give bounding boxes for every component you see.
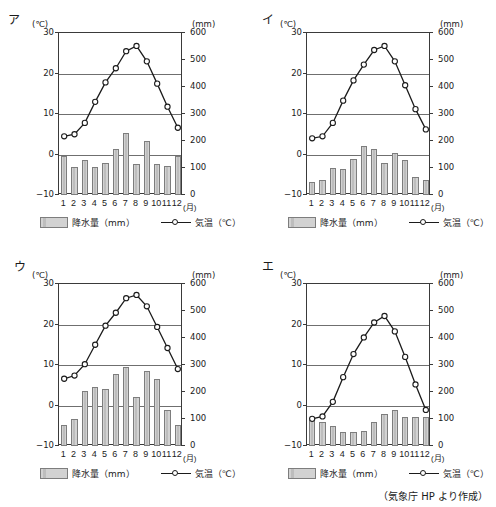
panel-label-b: イ [262, 10, 274, 27]
right-tickmark-d-200 [429, 391, 433, 392]
chart-panel-c: ウ(℃)(mm)3020100−106005004003002001000123… [0, 257, 248, 507]
right-tickmark-a-0 [181, 194, 185, 195]
left-tick-b-0: 0 [276, 149, 302, 159]
left-tick-c-20: 20 [28, 319, 54, 329]
legend-item-precipitation: 降水量（mm） [40, 216, 135, 229]
source-credit: （気象庁 HP より作成） [378, 488, 488, 503]
left-tickmark-b-20 [303, 73, 307, 74]
right-tick-b-400: 400 [438, 81, 454, 91]
chart-panel-a: ア(℃)(mm)3020100−106005004003002001000123… [0, 6, 248, 256]
left-tick-b-30: 30 [276, 27, 302, 37]
temperature-point [124, 296, 129, 301]
temperature-point [351, 78, 356, 83]
legend-item-temperature: 気温（℃） [161, 467, 241, 480]
right-tickmark-d-400 [429, 337, 433, 338]
right-tickmark-d-500 [429, 310, 433, 311]
legend-item-precipitation: 降水量（mm） [288, 467, 383, 480]
right-tick-d-0: 0 [438, 440, 443, 450]
left-tick-d-20: 20 [276, 319, 302, 329]
left-tick-b-10: 10 [276, 108, 302, 118]
right-tick-b-100: 100 [438, 162, 454, 172]
legend-a: 降水量（mm）気温（℃） [40, 216, 241, 229]
right-tick-b-600: 600 [438, 27, 454, 37]
right-tick-a-200: 200 [190, 135, 206, 145]
temperature-point [72, 132, 77, 137]
right-tick-d-500: 500 [438, 305, 454, 315]
right-tickmark-d-300 [429, 364, 433, 365]
right-tick-b-0: 0 [438, 189, 443, 199]
legend-b: 降水量（mm）気温（℃） [288, 216, 489, 229]
right-tick-c-0: 0 [190, 440, 195, 450]
temperature-point [320, 134, 325, 139]
left-tickmark-a-30 [55, 32, 59, 33]
right-tick-a-400: 400 [190, 81, 206, 91]
x-axis-unit-c: (月) [183, 452, 196, 463]
legend-label-precipitation: 降水量（mm） [72, 216, 135, 229]
panel-label-c: ウ [14, 257, 26, 274]
left-tick-d-30: 30 [276, 278, 302, 288]
line-marker-icon [161, 469, 191, 478]
left-tick-c--10: −10 [28, 440, 54, 450]
left-tick-a-10: 10 [28, 108, 54, 118]
temperature-point [103, 80, 108, 85]
left-tickmark-d-10 [303, 364, 307, 365]
temperature-point [113, 310, 118, 315]
legend-line-marker [420, 470, 426, 476]
temperature-point [341, 98, 346, 103]
chart-panel-b: イ(℃)(mm)3020100−106005004003002001000123… [248, 6, 496, 256]
legend-c: 降水量（mm）気温（℃） [40, 467, 241, 480]
right-tick-a-100: 100 [190, 162, 206, 172]
legend-item-precipitation: 降水量（mm） [40, 467, 135, 480]
right-tickmark-c-400 [181, 337, 185, 338]
temperature-point [392, 329, 397, 334]
line-marker-icon [409, 218, 439, 227]
right-tickmark-c-0 [181, 445, 185, 446]
right-tickmark-b-500 [429, 59, 433, 60]
legend-label-precipitation: 降水量（mm） [72, 467, 135, 480]
temperature-line [64, 295, 178, 379]
left-tick-a-20: 20 [28, 68, 54, 78]
legend-label-temperature: 気温（℃） [443, 216, 489, 229]
temperature-point [310, 136, 315, 141]
temperature-point [124, 49, 129, 54]
right-tick-d-600: 600 [438, 278, 454, 288]
legend-label-precipitation: 降水量（mm） [320, 216, 383, 229]
temperature-point [330, 399, 335, 404]
temperature-point [62, 134, 67, 139]
left-tickmark-b--10 [303, 194, 307, 195]
temperature-point [165, 104, 170, 109]
x-axis-unit-d: (月) [431, 452, 444, 463]
left-tickmark-d--10 [303, 445, 307, 446]
right-tickmark-c-100 [181, 418, 185, 419]
left-tickmark-c-20 [55, 324, 59, 325]
temperature-point [392, 59, 397, 64]
temperature-point [82, 362, 87, 367]
temperature-point [165, 345, 170, 350]
left-tick-a-0: 0 [28, 149, 54, 159]
temperature-point [93, 99, 98, 104]
right-tick-a-600: 600 [190, 27, 206, 37]
left-tick-b-20: 20 [276, 68, 302, 78]
temperature-point [403, 354, 408, 359]
left-tick-d--10: −10 [276, 440, 302, 450]
right-tickmark-c-600 [181, 283, 185, 284]
temperature-line [312, 46, 426, 138]
temperature-point [134, 43, 139, 48]
legend-item-precipitation: 降水量（mm） [288, 216, 383, 229]
legend-line-marker [172, 219, 178, 225]
right-tick-c-500: 500 [190, 305, 206, 315]
temperature-point [155, 81, 160, 86]
right-tick-d-100: 100 [438, 413, 454, 423]
left-tickmark-d-30 [303, 283, 307, 284]
right-tick-c-200: 200 [190, 386, 206, 396]
left-tickmark-d-0 [303, 405, 307, 406]
right-tick-d-400: 400 [438, 332, 454, 342]
temperature-point [351, 351, 356, 356]
right-tickmark-b-300 [429, 113, 433, 114]
plot-area-c [58, 283, 182, 445]
right-tickmark-d-100 [429, 418, 433, 419]
left-tickmark-a-10 [55, 113, 59, 114]
right-tickmark-c-200 [181, 391, 185, 392]
left-tick-b--10: −10 [276, 189, 302, 199]
left-tick-d-10: 10 [276, 359, 302, 369]
